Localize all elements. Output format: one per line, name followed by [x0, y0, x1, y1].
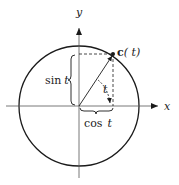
cos-label: cost [84, 117, 112, 130]
sin-brace [68, 55, 75, 105]
cos-func: cos [84, 117, 103, 130]
y-axis-label: y [75, 6, 83, 19]
radius-vector [79, 56, 112, 106]
angle-label: t [103, 83, 108, 96]
sin-label: sint [45, 74, 69, 87]
sin-var: t [64, 74, 69, 87]
cos-var: t [107, 117, 112, 130]
unit-circle-diagram: y x c( t) sint cost t [0, 0, 179, 185]
sin-func: sin [45, 74, 61, 87]
point-c-t [111, 52, 115, 56]
cos-brace [80, 108, 113, 114]
x-axis-label: x [164, 100, 171, 113]
point-arg: ( t) [124, 46, 141, 59]
point-label: c( t) [117, 46, 140, 59]
